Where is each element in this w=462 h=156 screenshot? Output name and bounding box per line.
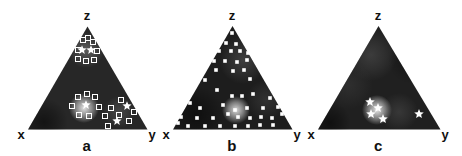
density-glow	[168, 86, 224, 142]
marker-filled-square	[217, 49, 221, 53]
marker-filled-square	[248, 116, 252, 120]
marker-filled-square	[271, 123, 275, 127]
ternary-panel-c: zxyc	[307, 8, 449, 154]
marker-filled-square	[186, 124, 190, 128]
panel-label-c: c	[374, 137, 382, 154]
density-glow	[246, 80, 286, 120]
marker-filled-square	[240, 94, 244, 98]
marker-filled-square	[195, 116, 199, 120]
marker-filled-square	[236, 115, 240, 119]
marker-filled-square	[198, 106, 202, 110]
vertex-label-x-a: x	[17, 127, 25, 142]
vertex-label-z-b: z	[229, 8, 236, 23]
marker-filled-square	[270, 116, 274, 120]
marker-filled-square	[246, 124, 250, 128]
marker-filled-square	[203, 78, 207, 82]
marker-filled-square	[268, 96, 272, 100]
marker-filled-square	[248, 77, 252, 81]
marker-filled-square	[176, 121, 180, 125]
marker-filled-square	[259, 115, 263, 119]
marker-filled-square	[245, 106, 249, 110]
marker-filled-square	[246, 51, 250, 55]
vertex-label-y-b: y	[293, 127, 301, 142]
marker-filled-square	[211, 116, 215, 120]
density-glow	[309, 102, 351, 144]
marker-filled-square	[242, 68, 246, 72]
density-glow	[388, 36, 436, 84]
marker-filled-square	[233, 124, 237, 128]
marker-filled-square	[230, 94, 234, 98]
marker-filled-square	[224, 41, 228, 45]
marker-filled-square	[251, 92, 255, 96]
vertex-label-z-a: z	[84, 8, 91, 23]
marker-filled-square	[179, 115, 183, 119]
panel-label-a: a	[83, 137, 92, 154]
ternary-panel-a: zxya	[17, 8, 156, 154]
vertex-label-z-c: z	[375, 8, 382, 23]
marker-filled-square	[223, 59, 227, 63]
marker-filled-square	[230, 31, 234, 35]
marker-filled-square	[233, 108, 237, 112]
marker-filled-square	[214, 68, 218, 72]
marker-filled-square	[231, 69, 235, 73]
density-glow	[380, 93, 418, 131]
vertex-label-x-b: x	[162, 127, 170, 142]
marker-filled-square	[212, 59, 216, 63]
marker-filled-square	[235, 60, 239, 64]
marker-filled-square	[226, 112, 230, 116]
vertex-label-x-c: x	[307, 127, 315, 142]
marker-filled-square	[245, 58, 249, 62]
marker-filled-square	[238, 49, 242, 53]
ternary-figure: zxyazxybzxyc	[0, 0, 462, 156]
marker-filled-square	[215, 88, 219, 92]
marker-filled-square	[229, 49, 233, 53]
marker-filled-square	[276, 105, 280, 109]
marker-filled-square	[188, 101, 192, 105]
vertex-label-y-c: y	[441, 127, 449, 142]
marker-filled-square	[258, 123, 262, 127]
marker-filled-square	[234, 42, 238, 46]
marker-filled-square	[221, 103, 225, 107]
marker-filled-square	[280, 112, 284, 116]
density-glow	[20, 98, 68, 146]
ternary-panel-b: zxyb	[162, 8, 301, 154]
marker-filled-square	[218, 124, 222, 128]
panel-label-b: b	[227, 137, 236, 154]
marker-filled-square	[203, 124, 207, 128]
vertex-label-y-a: y	[148, 127, 156, 142]
marker-filled-square	[261, 106, 265, 110]
ternary-figure-canvas: zxyazxybzxyc	[0, 0, 462, 156]
